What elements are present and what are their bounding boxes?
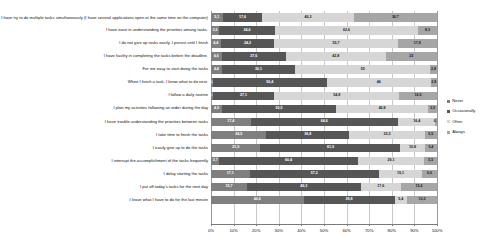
bar-segment-never: 17,1	[211, 170, 250, 179]
bar-segment-value: 36,8	[304, 133, 311, 137]
bar-row-label: I delay starting the tasks	[0, 172, 211, 177]
x-tick-label: 50%	[320, 228, 328, 233]
legend-swatch-icon	[447, 131, 450, 134]
bar-segment-value: 16,6	[415, 94, 422, 98]
bar-row-label: I put off today's tasks for the next day	[0, 185, 211, 190]
bar-segment-value: 49,3	[300, 185, 307, 189]
bar-row: I have try to do multiple tasks simultan…	[0, 11, 440, 24]
bar-segment-value: 5,4	[398, 198, 403, 202]
bar-segment-never: 4,4	[211, 39, 221, 48]
bar-segment-value: 5,5	[428, 159, 433, 163]
x-tick	[256, 224, 257, 226]
x-tick	[279, 224, 280, 226]
bar-segment-value: 33,3	[383, 133, 390, 137]
bar-segment-often: 55	[295, 65, 430, 74]
bar-segment-value: 5,4	[428, 146, 433, 150]
x-tick	[324, 224, 325, 226]
stacked-bar: 15,749,317,615,6	[211, 183, 437, 192]
bar-row: I plan my activities following an order …	[0, 102, 440, 115]
bar-segment-value: 50,4	[266, 81, 273, 85]
stacked-bar: 4,430,1552,8	[211, 65, 437, 74]
bar-segment-always: 16,6	[399, 92, 437, 101]
bar-segment-never: 3,7	[211, 157, 219, 166]
bar-segment-often: 54,8	[274, 92, 399, 101]
stacked-bar: 4,627,642,822	[211, 52, 437, 61]
bar-segment-value: 40,3	[305, 16, 312, 20]
bar-segment-value: 17,6	[377, 185, 384, 189]
stacked-bar: 3,524,662,68,3	[211, 26, 437, 35]
bar-row: I follow a daily routine0,727,154,816,6	[0, 89, 440, 102]
bar-row-label: I have trouble understanding the priorit…	[0, 120, 211, 125]
bar-segment-always: 0,7	[435, 118, 437, 127]
bar-segment-value: 50,5	[276, 107, 283, 111]
bar-segment-value: 4,4	[214, 68, 219, 72]
legend-swatch-icon	[447, 110, 450, 113]
bar-segment-value: 61,9	[327, 146, 334, 150]
stacked-bar: 0,850,4462,8	[211, 78, 437, 87]
bar-segment-always: 6,6	[422, 170, 437, 179]
bar-segment-often: 16,4	[398, 118, 435, 127]
x-axis-ticks: 0%10%20%30%40%50%60%70%80%90%100%	[211, 224, 437, 240]
bar-segment-value: 30,1	[255, 68, 262, 72]
bar-segment-value: 0,7	[434, 120, 437, 124]
bar-segment-never: 5,1	[211, 13, 223, 22]
bar-segment-value: 62,6	[343, 29, 350, 33]
bar-segment-always: 8,3	[418, 26, 437, 35]
bar-segment-never: 3,5	[211, 26, 219, 35]
bar-row-label: I have ease in understanding the priorit…	[0, 28, 211, 33]
x-tick-label: 90%	[410, 228, 418, 233]
x-tick	[347, 224, 348, 226]
stacked-bar: 0,727,154,816,6	[211, 92, 437, 101]
bar-segment-value: 4,9	[214, 107, 219, 111]
bar-segment-value: 40,6	[254, 198, 261, 202]
bar-segment-value: 3,9	[430, 107, 435, 111]
legend-label: Often	[452, 120, 462, 125]
bar-segment-occasionally: 60,4	[219, 157, 357, 166]
x-tick	[392, 224, 393, 226]
legend-label: Never	[452, 99, 463, 104]
stacked-bar: 17,157,219,16,6	[211, 170, 437, 179]
stacked-bar: 21,961,910,85,4	[211, 144, 437, 153]
bar-segment-value: 46	[377, 81, 381, 85]
bar-segment-value: 54,8	[333, 94, 340, 98]
stacked-bar: 3,760,429,15,5	[211, 157, 437, 166]
bar-row: I have trouble understanding the priorit…	[0, 115, 440, 128]
bar-segment-often: 40,3	[262, 13, 353, 22]
stacked-bar: 4,424,255,717,8	[211, 39, 437, 48]
bar-row-label: When I finish a task, I know what to do …	[0, 80, 211, 85]
stacked-bar: 17,464,616,40,7	[211, 118, 437, 127]
x-tick-label: 10%	[229, 228, 237, 233]
bar-row-label: I easily give up to do the tasks	[0, 146, 211, 151]
bar-segment-occasionally: 39,8	[304, 196, 395, 205]
bar-segment-value: 24,2	[244, 42, 251, 46]
x-tick-label: 40%	[297, 228, 305, 233]
bar-row-label: For me easy to start doing the tasks	[0, 67, 211, 72]
legend-label: Always	[452, 130, 465, 135]
bar-segment-value: 4,6	[214, 55, 219, 59]
stacked-bar: 5,117,640,336,7	[211, 13, 437, 22]
legend-item: Often	[447, 117, 493, 127]
bar-row: I take time to finish the tasks24,536,83…	[0, 128, 440, 141]
bar-row-label: I have try to do multiple tasks simultan…	[0, 15, 211, 20]
bar-segment-value: 13,2	[418, 198, 425, 202]
bar-segment-value: 42,8	[332, 55, 339, 59]
bar-segment-often: 17,6	[361, 183, 402, 192]
bar-row: I put off today's tasks for the next day…	[0, 181, 440, 194]
bar-row: I delay starting the tasks17,157,219,16,…	[0, 168, 440, 181]
bar-segment-never: 4,6	[211, 52, 222, 61]
bar-segment-always: 2,8	[431, 78, 437, 87]
x-tick	[234, 224, 235, 226]
bar-segment-often: 10,8	[400, 144, 424, 153]
bar-segment-often: 40,8	[336, 105, 428, 114]
x-tick	[211, 224, 212, 226]
bar-row-label: I take time to finish the tasks	[0, 133, 211, 138]
bar-segment-occasionally: 27,6	[222, 52, 286, 61]
bar-segment-often: 46	[327, 78, 431, 87]
bar-segment-always: 3,9	[428, 105, 437, 114]
bar-segment-value: 24,5	[235, 133, 242, 137]
bar-segment-value: 57,2	[311, 172, 318, 176]
bar-segment-occasionally: 24,2	[221, 39, 275, 48]
bar-segment-always: 15,6	[401, 183, 437, 192]
bar-segment-never: 21,9	[211, 144, 260, 153]
x-tick-label: 20%	[252, 228, 260, 233]
